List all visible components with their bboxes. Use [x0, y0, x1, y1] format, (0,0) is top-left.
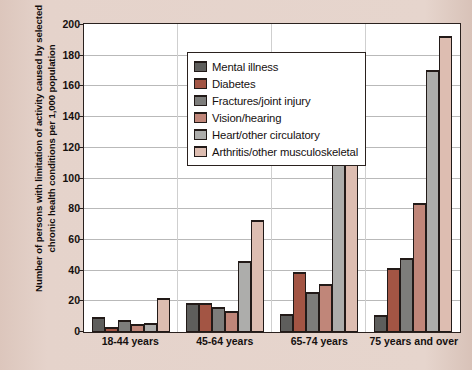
- bar-cap: [199, 303, 212, 305]
- bar-cap: [186, 303, 199, 305]
- x-axis-label-3: 65-74 years: [272, 335, 367, 347]
- legend-swatch-cap: [194, 78, 207, 80]
- legend-swatch-icon: [194, 61, 207, 72]
- bar[interactable]: [157, 298, 170, 332]
- bar[interactable]: [413, 203, 426, 332]
- bar[interactable]: [212, 307, 225, 332]
- legend-item-5[interactable]: Heart/other circulatory: [194, 126, 358, 143]
- bar[interactable]: [118, 320, 131, 332]
- bar-cap: [374, 315, 387, 317]
- chart-legend: Mental illnessDiabetesFractures/joint in…: [187, 52, 366, 166]
- legend-label: Diabetes: [212, 78, 255, 90]
- figure-background: Number of persons with limitation of act…: [0, 0, 472, 370]
- legend-swatch-icon: [194, 78, 207, 89]
- legend-swatch-cap: [194, 129, 207, 131]
- bar[interactable]: [92, 317, 105, 332]
- legend-swatch-icon: [194, 112, 207, 123]
- bar-cap: [225, 311, 238, 313]
- legend-item-3[interactable]: Fractures/joint injury: [194, 92, 358, 109]
- bar-group-1: [84, 24, 178, 332]
- bar-cap: [105, 327, 118, 329]
- y-axis-tick-label: 100: [62, 172, 80, 184]
- legend-item-2[interactable]: Diabetes: [194, 75, 358, 92]
- bar-cap: [400, 258, 413, 260]
- bar[interactable]: [280, 314, 293, 332]
- y-axis-tick-label: 140: [62, 110, 80, 122]
- bar[interactable]: [199, 303, 212, 332]
- bar-cap: [426, 70, 439, 72]
- legend-swatch-cap: [194, 146, 207, 148]
- bar-cap: [387, 268, 400, 270]
- bar[interactable]: [400, 258, 413, 332]
- legend-item-6[interactable]: Arthritis/other musculoskeletal: [194, 143, 358, 160]
- bar-cap: [157, 298, 170, 300]
- bar[interactable]: [426, 70, 439, 332]
- legend-swatch-cap: [194, 61, 207, 63]
- y-axis-tick-label: 180: [62, 49, 80, 61]
- bar[interactable]: [131, 324, 144, 332]
- bar-cap: [439, 36, 452, 38]
- bar-cap: [118, 320, 131, 322]
- bar-cap: [131, 324, 144, 326]
- bar-cap: [144, 323, 157, 325]
- x-axis-label-1: 18-44 years: [83, 335, 178, 347]
- legend-label: Heart/other circulatory: [212, 129, 320, 141]
- bar[interactable]: [251, 220, 264, 332]
- legend-swatch-cap: [194, 112, 207, 114]
- bar[interactable]: [306, 292, 319, 332]
- bar[interactable]: [225, 311, 238, 332]
- y-axis-tick-label: 120: [62, 141, 80, 153]
- bar-cap: [280, 314, 293, 316]
- bar-chart-figure: Number of persons with limitation of act…: [8, 6, 464, 362]
- bar-cap: [238, 261, 251, 263]
- x-axis-label-2: 45-64 years: [178, 335, 273, 347]
- x-axis-labels: 18-44 years45-64 years65-74 years75 year…: [83, 335, 461, 347]
- bar[interactable]: [105, 327, 118, 332]
- x-axis-label-4: 75 years and over: [367, 335, 462, 347]
- plot-area: 020406080100120140160180200 Mental illne…: [83, 23, 461, 333]
- bar[interactable]: [439, 36, 452, 332]
- legend-swatch-icon: [194, 95, 207, 106]
- legend-label: Vision/hearing: [212, 112, 281, 124]
- bar[interactable]: [374, 315, 387, 332]
- bar-cap: [251, 220, 264, 222]
- bar[interactable]: [332, 162, 345, 332]
- bar[interactable]: [319, 284, 332, 332]
- legend-swatch-icon: [194, 129, 207, 140]
- bar-cap: [413, 203, 426, 205]
- bar[interactable]: [186, 303, 199, 332]
- legend-label: Mental illness: [212, 61, 278, 73]
- bar-cap: [92, 317, 105, 319]
- bar-cap: [212, 307, 225, 309]
- y-axis-tick-label: 200: [62, 18, 80, 30]
- bar-cap: [319, 284, 332, 286]
- bar[interactable]: [345, 151, 358, 332]
- legend-swatch-icon: [194, 146, 207, 157]
- legend-label: Fractures/joint injury: [212, 95, 310, 107]
- bar[interactable]: [238, 261, 251, 332]
- legend-item-4[interactable]: Vision/hearing: [194, 109, 358, 126]
- legend-item-1[interactable]: Mental illness: [194, 58, 358, 75]
- bar-cap: [293, 272, 306, 274]
- legend-label: Arthritis/other musculoskeletal: [212, 146, 358, 158]
- y-axis-tick-label: 160: [62, 79, 80, 91]
- bar[interactable]: [144, 323, 157, 332]
- bar-group-4: [366, 24, 460, 332]
- bar-cap: [306, 292, 319, 294]
- bar[interactable]: [387, 268, 400, 332]
- bar[interactable]: [293, 272, 306, 332]
- y-axis-title: Number of persons with limitation of act…: [33, 0, 58, 299]
- legend-swatch-cap: [194, 95, 207, 97]
